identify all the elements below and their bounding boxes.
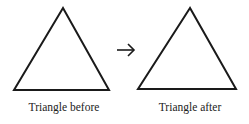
arrow-icon: [117, 44, 134, 56]
label-triangle-after: Triangle after: [140, 101, 240, 113]
triangle-before: [14, 8, 109, 90]
label-triangle-before: Triangle before: [14, 101, 114, 113]
triangle-after: [138, 8, 236, 89]
